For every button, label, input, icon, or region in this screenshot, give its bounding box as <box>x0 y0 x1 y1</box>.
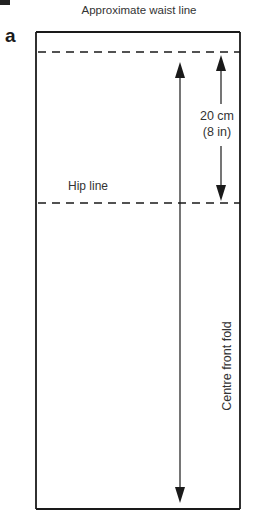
measurement-in: (8 in) <box>197 124 237 140</box>
measurement-label: 20 cm (8 in) <box>197 108 237 140</box>
measurement-cm: 20 cm <box>197 108 237 124</box>
pattern-diagram <box>0 0 253 516</box>
hip-line-label: Hip line <box>68 180 108 192</box>
centre-front-fold-label: Centre front fold <box>221 321 234 411</box>
pattern-outline <box>36 32 240 509</box>
centre-front-arrow <box>175 62 185 503</box>
